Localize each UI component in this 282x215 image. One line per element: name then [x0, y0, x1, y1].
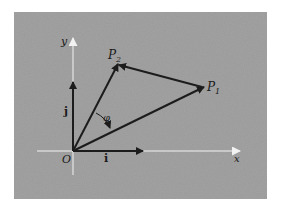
unit-j-label: j	[63, 105, 68, 118]
vector-diagram: y x O j i φ P2 P1	[0, 0, 282, 215]
y-axis-label: y	[60, 35, 68, 48]
x-axis-label: x	[234, 153, 240, 164]
figure-panel	[14, 12, 267, 199]
angle-label: φ	[103, 112, 110, 123]
origin-label: O	[62, 153, 71, 166]
unit-i-label: i	[104, 152, 108, 165]
